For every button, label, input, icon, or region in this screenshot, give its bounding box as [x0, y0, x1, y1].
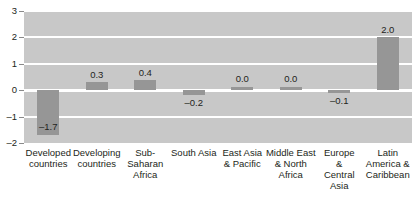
gridline-1: [24, 63, 412, 65]
y-tick-mark: [19, 143, 24, 144]
x-category-label-line: Caribbean: [362, 169, 415, 180]
gridline-2: [24, 36, 412, 38]
bar-value-label: –0.2: [170, 98, 218, 108]
x-category-label-line: Sub-: [119, 147, 172, 158]
x-category-label-line: Asia: [313, 180, 366, 191]
gridline-3: [24, 10, 412, 12]
bar: [86, 82, 108, 90]
y-tick-label: 0: [12, 85, 17, 95]
bar-value-label: 0.0: [267, 74, 315, 84]
x-category-label-line: Saharan: [119, 158, 172, 169]
x-category-label-line: & Pacific: [216, 158, 269, 169]
x-category-label: Developingcountries: [71, 147, 124, 169]
bar: [231, 87, 253, 90]
x-category-label-line: Middle East: [265, 147, 318, 158]
bar: [328, 90, 350, 93]
x-category-label-line: countries: [71, 158, 124, 169]
bar-value-label: –0.1: [315, 96, 363, 106]
x-category-label-line: &: [313, 158, 366, 169]
x-category-label-line: Developing: [71, 147, 124, 158]
y-tick-label: –2: [6, 138, 17, 148]
x-category-label-line: South Asia: [168, 147, 221, 158]
x-category-label-line: Africa: [119, 169, 172, 180]
bar: [134, 80, 156, 91]
bar: [377, 37, 399, 90]
x-category-label: Europe&CentralAsia: [313, 147, 366, 191]
y-tick-label: 1: [12, 59, 17, 69]
x-category-label: LatinAmerica &Caribbean: [362, 147, 415, 180]
bar-value-label: 0.3: [73, 70, 121, 80]
y-tick-label: 2: [12, 32, 17, 42]
x-category-label-line: & North: [265, 158, 318, 169]
gridline-0: [24, 89, 412, 92]
x-category-label-line: countries: [22, 158, 75, 169]
bar-chart: 3210–1–2 –1.70.30.4–0.20.00.0–0.12.0 Dev…: [0, 0, 415, 208]
x-category-label-line: Europe: [313, 147, 366, 158]
x-category-label-line: Africa: [265, 169, 318, 180]
x-axis-category-labels: DevelopedcountriesDevelopingcountriesSub…: [24, 147, 412, 208]
x-category-label-line: Developed: [22, 147, 75, 158]
x-category-label: Sub-SaharanAfrica: [119, 147, 172, 180]
y-tick-label: 3: [12, 6, 17, 16]
x-category-label-line: America &: [362, 158, 415, 169]
bar-value-label: –1.7: [24, 122, 72, 132]
plot-area: –1.70.30.4–0.20.00.0–0.12.0: [24, 11, 412, 143]
x-category-label: East Asia& Pacific: [216, 147, 269, 169]
x-category-label: Developedcountries: [22, 147, 75, 169]
x-category-label-line: Latin: [362, 147, 415, 158]
bar-value-label: 0.4: [121, 68, 169, 78]
gridline-neg1: [24, 116, 412, 118]
bar-value-label: 2.0: [364, 25, 412, 35]
x-category-label: South Asia: [168, 147, 221, 158]
x-category-label: Middle East& NorthAfrica: [265, 147, 318, 180]
x-category-label-line: East Asia: [216, 147, 269, 158]
y-axis: 3210–1–2: [0, 0, 24, 160]
y-tick-label: –1: [6, 112, 17, 122]
bar: [183, 90, 205, 95]
bar-value-label: 0.0: [218, 74, 266, 84]
bar: [280, 87, 302, 90]
x-category-label-line: Central: [313, 169, 366, 180]
